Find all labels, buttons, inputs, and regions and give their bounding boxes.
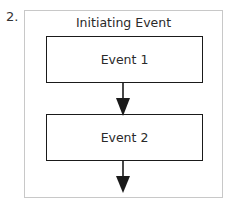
flow-arrows: [0, 0, 236, 212]
arrow-down-icon: [116, 161, 130, 193]
arrow-down-icon: [116, 83, 130, 116]
